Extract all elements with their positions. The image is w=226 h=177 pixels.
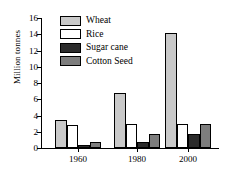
x-axis-label: 2000	[179, 154, 197, 164]
y-tick-label: 6	[34, 94, 39, 104]
y-tick-label: 12	[29, 46, 38, 56]
x-axis-label: 1980	[128, 154, 146, 164]
bar	[165, 33, 177, 148]
x-axis-tick	[188, 148, 189, 152]
bar	[55, 120, 67, 148]
legend-item: Wheat	[60, 14, 133, 28]
legend-label: Wheat	[86, 16, 111, 26]
y-axis-title: Million tonnes	[12, 12, 22, 102]
legend-item: Cotton Seed	[60, 55, 133, 69]
bar	[78, 145, 90, 148]
bar	[90, 142, 102, 149]
legend-swatch	[60, 16, 81, 26]
bar	[114, 93, 126, 148]
y-tick-label: 10	[29, 62, 38, 72]
y-tick-label: 0	[34, 143, 39, 153]
bar	[67, 125, 79, 148]
bar	[149, 134, 161, 148]
bar	[188, 134, 200, 148]
y-tick-label: 8	[34, 78, 39, 88]
bar	[200, 124, 212, 148]
bar	[126, 124, 138, 148]
legend-swatch	[60, 43, 81, 53]
legend-item: Sugar cane	[60, 41, 133, 55]
chart-legend: WheatRiceSugar caneCotton Seed	[60, 14, 133, 68]
x-axis-tick	[137, 148, 138, 152]
legend-label: Cotton Seed	[86, 57, 133, 67]
y-tick-label: 2	[34, 127, 39, 137]
bar	[137, 142, 149, 149]
bar	[177, 124, 189, 148]
y-tick-label: 4	[34, 111, 39, 121]
legend-swatch	[60, 29, 81, 39]
x-axis-line	[41, 148, 219, 149]
x-axis-label: 1960	[69, 154, 87, 164]
legend-label: Rice	[86, 30, 103, 40]
x-axis-tick	[78, 148, 79, 152]
y-tick-label: 14	[29, 29, 38, 39]
bar-chart: Million tonnes 0246810121416196019802000…	[0, 0, 226, 177]
legend-item: Rice	[60, 28, 133, 42]
y-tick-label: 16	[29, 13, 38, 23]
legend-label: Sugar cane	[86, 43, 128, 53]
legend-swatch	[60, 56, 81, 66]
